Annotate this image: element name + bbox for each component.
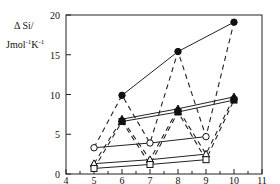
open-square-marker [91,165,97,171]
x-tick-label: 8 [176,175,181,184]
open-square-marker [147,161,153,167]
y-tick-label: 15 [50,50,60,61]
circle-zigzag-dashed-line [94,22,234,148]
filled-circle-line [122,22,234,95]
x-tick-label: 4 [64,175,69,184]
filled-circle-marker [119,92,125,98]
x-tick-label: 10 [229,175,239,184]
line-chart: 456789101105101520m [0,0,280,184]
y-tick-label: 20 [50,10,60,21]
x-tick-label: 7 [148,175,153,184]
open-circle-marker [147,140,153,146]
open-square-marker [203,157,209,163]
filled-square-marker [119,119,125,125]
filled-circle-marker [231,19,237,25]
x-tick-label: 6 [120,175,125,184]
filled-square-marker [231,97,237,103]
filled-circle-marker [175,48,181,54]
x-tick-label: 5 [92,175,97,184]
open-circle-marker [91,145,97,151]
y-tick-label: 0 [55,169,60,180]
x-tick-label: 11 [257,175,267,184]
triangle-zigzag-dashed-line [94,97,234,164]
open-circle-marker [203,133,209,139]
x-tick-label: 9 [204,175,209,184]
y-tick-label: 5 [55,129,60,140]
filled-square-marker [175,109,181,115]
x-axis-label: m [212,181,219,184]
y-tick-label: 10 [50,90,60,101]
